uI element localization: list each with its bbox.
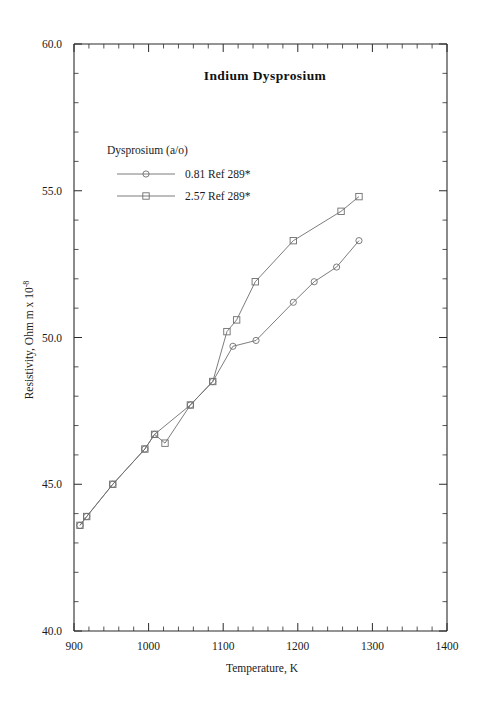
svg-text:Resistivity, Ohm m x 10-8: Resistivity, Ohm m x 10-8: [22, 281, 36, 400]
x-tick-label: 1400: [436, 640, 459, 652]
x-tick-label: 900: [65, 640, 83, 652]
axis-tick-labels: 9001000110012001300140040.045.050.055.06…: [42, 38, 459, 652]
y-tick-label: 50.0: [42, 332, 62, 344]
y-axis-title-main: Resistivity, Ohm m x 10: [23, 287, 36, 399]
legend-label-1: 2.57 Ref 289*: [185, 190, 251, 202]
x-tick-label: 1200: [286, 640, 309, 652]
data-series-layer: [77, 193, 362, 528]
y-tick-label: 55.0: [42, 185, 62, 197]
x-tick-label: 1000: [137, 640, 160, 652]
series-line-1: [80, 197, 359, 526]
axis-ticks: [74, 44, 447, 631]
data-series: [77, 238, 362, 529]
legend-entry-1: 2.57 Ref 289*: [117, 190, 251, 202]
legend-title: Dysprosium (a/o): [107, 144, 188, 157]
y-axis-title: Resistivity, Ohm m x 10-8: [22, 281, 36, 400]
chart-figure: 9001000110012001300140040.045.050.055.06…: [0, 0, 490, 703]
y-axis-title-exponent: -8: [22, 281, 31, 288]
x-axis-title: Temperature, K: [226, 662, 299, 675]
x-tick-label: 1300: [361, 640, 384, 652]
x-tick-label: 1100: [212, 640, 235, 652]
legend-entry-0: 0.81 Ref 289*: [117, 168, 251, 180]
plot-axes: [74, 44, 447, 631]
chart-title: Indium Dysprosium: [204, 68, 327, 83]
y-tick-label: 60.0: [42, 38, 62, 50]
legend: Dysprosium (a/o) 0.81 Ref 289* 2.57 Ref …: [107, 144, 251, 202]
data-series: [77, 193, 362, 528]
resistivity-vs-temperature-chart: 9001000110012001300140040.045.050.055.06…: [0, 0, 490, 703]
y-tick-label: 45.0: [42, 478, 62, 490]
legend-label-0: 0.81 Ref 289*: [185, 168, 251, 180]
y-tick-label: 40.0: [42, 625, 62, 637]
